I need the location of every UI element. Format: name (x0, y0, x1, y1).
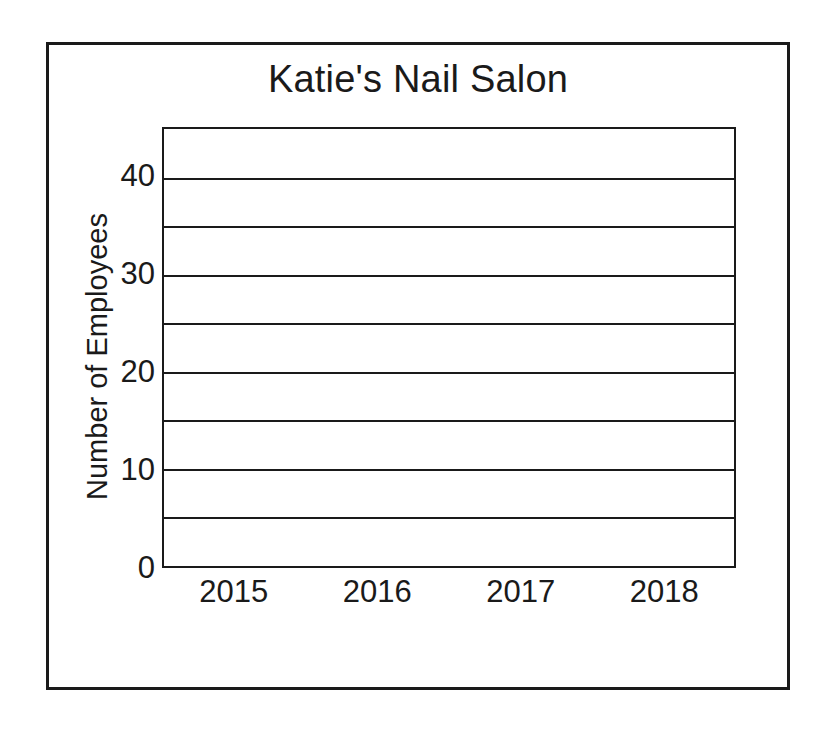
plot-area (162, 127, 736, 568)
x-tick-label-2015: 2015 (162, 574, 306, 620)
x-axis-tick-labels: 2015 2016 2017 2018 (162, 574, 736, 620)
x-tick-label-2017: 2017 (449, 574, 593, 620)
bar-series (164, 129, 734, 566)
y-axis-tick-labels: 40 30 20 10 0 (95, 127, 155, 568)
y-tick-label-40: 40 (95, 158, 155, 194)
y-tick-label-10: 10 (95, 452, 155, 488)
y-tick-label-20: 20 (95, 354, 155, 390)
y-tick-label-0: 0 (95, 550, 155, 586)
chart-title: Katie's Nail Salon (46, 58, 790, 101)
x-tick-label-2016: 2016 (306, 574, 450, 620)
y-tick-label-30: 30 (95, 256, 155, 292)
x-tick-label-2018: 2018 (593, 574, 737, 620)
